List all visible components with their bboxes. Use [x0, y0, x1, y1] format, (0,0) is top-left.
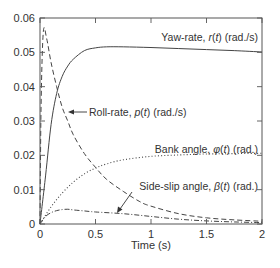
arrow-icon-roll-rate — [68, 110, 87, 115]
x-tick-label: 0 — [37, 228, 43, 240]
x-tick-label: 2 — [259, 228, 265, 240]
arrow-icon-side-slip — [117, 192, 132, 213]
y-tick-label: 0.03 — [14, 115, 35, 127]
axis-ticks — [40, 18, 262, 224]
line-chart: 00.010.020.030.040.050.06 00.511.52 Time… — [0, 0, 280, 268]
annotation-side-slip: Side-slip angle, β(t) (rad.) — [139, 180, 258, 192]
y-tick-label: 0.05 — [14, 46, 35, 58]
series-line-roll-rate — [40, 27, 262, 224]
annotation-roll-rate: Roll-rate, p(t) (rad./s) — [89, 106, 186, 118]
annotation-yaw-rate: Yaw-rate, r(t) (rad./s) — [161, 31, 258, 43]
y-tick-label: 0 — [29, 218, 35, 230]
y-axis-tick-labels: 00.010.020.030.040.050.06 — [14, 12, 35, 230]
y-tick-label: 0.01 — [14, 184, 35, 196]
y-tick-label: 0.04 — [14, 81, 35, 93]
annotation-bank-angle: Bank angle, φ(t) (rad.) — [155, 143, 258, 155]
x-tick-label: 0.5 — [88, 228, 103, 240]
x-axis-title: Time (s) — [131, 239, 171, 251]
series-layer — [40, 27, 262, 224]
y-tick-label: 0.02 — [14, 149, 35, 161]
x-tick-label: 1.5 — [199, 228, 214, 240]
y-tick-label: 0.06 — [14, 12, 35, 24]
plot-frame — [40, 18, 262, 224]
